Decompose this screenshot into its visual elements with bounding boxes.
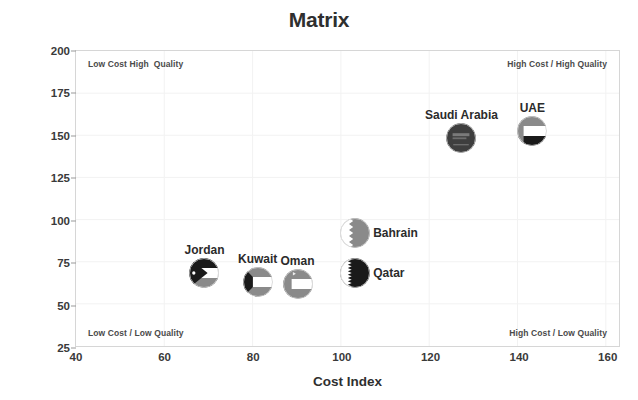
- x-axis-title: Cost Index: [75, 374, 620, 389]
- y-tick-label-150: 150: [51, 130, 70, 142]
- y-tick-mark-25: [71, 348, 76, 349]
- oman-flag-icon: [283, 269, 313, 299]
- x-tick-label-100: 100: [332, 351, 351, 363]
- y-tick-label-25: 25: [57, 342, 70, 354]
- x-tick-label-60: 60: [158, 351, 171, 363]
- y-tick-label-125: 125: [51, 172, 70, 184]
- point-label-kuwait: Kuwait: [238, 252, 277, 266]
- jordan-flag-icon: [189, 258, 219, 288]
- point-label-bahrain: Bahrain: [373, 226, 418, 240]
- point-label-jordan: Jordan: [184, 243, 224, 257]
- x-tick-label-120: 120: [421, 351, 440, 363]
- y-tick-label-175: 175: [51, 87, 70, 99]
- point-label-oman: Oman: [281, 254, 315, 268]
- y-tick-mark-125: [71, 178, 76, 179]
- x-tick-label-140: 140: [509, 351, 528, 363]
- uae-flag-icon: [517, 116, 547, 146]
- quadrant-label-bottom-right: High Cost / Low Quality: [509, 328, 607, 338]
- point-label-uae: UAE: [520, 101, 545, 115]
- y-tick-mark-75: [71, 263, 76, 264]
- saudi-arabia-flag-icon: [446, 123, 476, 153]
- y-tick-label-75: 75: [57, 257, 70, 269]
- kuwait-flag-icon: [243, 267, 273, 297]
- x-tick-label-160: 160: [598, 351, 617, 363]
- y-tick-label-50: 50: [57, 300, 70, 312]
- quadrant-label-top-right: High Cost / High Quality: [507, 59, 607, 69]
- y-tick-label-100: 100: [51, 215, 70, 227]
- quadrant-label-bottom-left: Low Cost / Low Quality: [88, 328, 184, 338]
- scatter-chart: Matrix Low Cost High Quality High Cost /…: [0, 0, 638, 400]
- y-tick-mark-175: [71, 93, 76, 94]
- quadrant-label-top-left: Low Cost High Quality: [88, 59, 183, 69]
- chart-title: Matrix: [0, 8, 638, 32]
- point-label-qatar: Qatar: [373, 266, 404, 280]
- plot-area: Low Cost High Quality High Cost / High Q…: [75, 50, 620, 347]
- qatar-flag-icon: [340, 258, 370, 288]
- y-tick-mark-200: [71, 51, 76, 52]
- point-label-saudi-arabia: Saudi Arabia: [425, 108, 498, 122]
- y-tick-label-200: 200: [51, 45, 70, 57]
- bahrain-flag-icon: [340, 218, 370, 248]
- x-tick-label-80: 80: [247, 351, 260, 363]
- y-tick-mark-100: [71, 220, 76, 221]
- gridlines: [76, 51, 619, 346]
- x-tick-label-40: 40: [70, 351, 83, 363]
- y-tick-mark-150: [71, 135, 76, 136]
- y-tick-mark-50: [71, 305, 76, 306]
